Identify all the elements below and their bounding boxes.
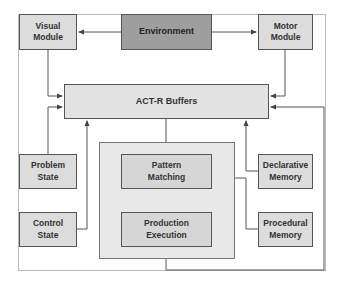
environment-node: Environment xyxy=(121,14,212,50)
declarative-memory-node: Declarative Memory xyxy=(258,154,313,189)
problem-state-node: Problem State xyxy=(19,154,77,189)
pattern-matching-node: Pattern Matching xyxy=(121,154,212,189)
act-r-buffers-node: ACT-R Buffers xyxy=(64,84,269,119)
control-state-node: Control State xyxy=(19,212,77,247)
act-r-diagram: Visual Module Environment Motor Module A… xyxy=(0,0,342,284)
production-execution-node: Production Execution xyxy=(121,212,212,247)
motor-module-node: Motor Module xyxy=(258,14,313,50)
visual-module-node: Visual Module xyxy=(19,14,77,50)
procedural-memory-node: Procedural Memory xyxy=(258,212,313,247)
